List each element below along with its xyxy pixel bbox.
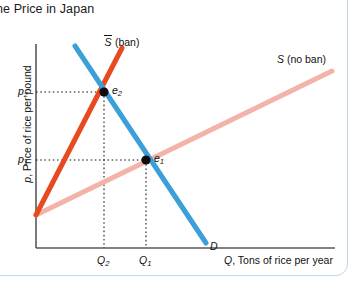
y-tick-p2-sub: 2 <box>24 90 28 99</box>
x-axis-label: Q, Tons of rice per year <box>224 254 333 266</box>
supply-noban-symbol: S <box>277 53 284 65</box>
y-tick-p1-sub: 1 <box>24 158 28 167</box>
equilibrium-point-e2 <box>99 87 108 96</box>
x-tick-q1-prefix: Q <box>139 254 147 266</box>
supply-noban-label: S (no ban) <box>277 53 326 65</box>
x-axis-label-prefix: Q <box>224 254 232 266</box>
supply-ban-symbol: S <box>104 36 112 48</box>
supply-noban-note: (no ban) <box>287 53 326 65</box>
equilibrium-label-e2: e2 <box>112 84 122 98</box>
x-tick-q2-sub: 2 <box>105 259 109 268</box>
x-axis-label-text: , Tons of rice per year <box>232 254 333 266</box>
equilibrium-label-e1: e1 <box>154 152 164 166</box>
supply-demand-figure: he Price in Japan p, Price of rice per p… <box>0 0 350 286</box>
supply-ban-curve <box>36 48 122 215</box>
x-tick-q1-sub: 1 <box>147 259 151 268</box>
supply-ban-note: (ban) <box>115 36 140 48</box>
plot-canvas <box>0 0 350 286</box>
equilibrium-e1-sub: 1 <box>160 157 164 166</box>
x-tick-q1: Q1 <box>139 254 151 268</box>
equilibrium-e2-sub: 2 <box>118 89 122 98</box>
supply-noban-curve <box>36 71 332 215</box>
equilibrium-point-e1 <box>141 155 150 164</box>
x-tick-q2: Q2 <box>97 254 109 268</box>
y-tick-p1: p1 <box>18 153 28 167</box>
supply-ban-label: S (ban) <box>104 36 139 48</box>
demand-label: D <box>210 240 218 252</box>
demand-symbol: D <box>210 240 218 252</box>
x-tick-q2-prefix: Q <box>97 254 105 266</box>
y-tick-p2: p2 <box>18 85 28 99</box>
